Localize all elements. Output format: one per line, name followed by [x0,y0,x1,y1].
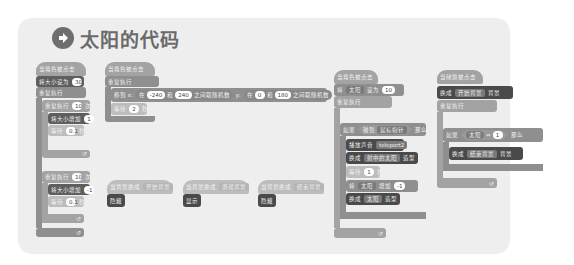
change-variable-block[interactable]: 将 太阳 增加 -1 [346,180,418,192]
repeat-end-1: ↺ [42,150,90,158]
repeat-end-2: ↺ [42,214,84,223]
block-suffix: 次 [85,173,91,181]
wait-block-2[interactable]: 等待 0.1 秒 [48,196,84,207]
backdrop-dropdown[interactable]: 开始背景 [143,183,173,191]
forever-block[interactable]: 重复执行 [334,96,392,108]
show-block[interactable]: 显示 [183,194,201,207]
block-label: 将 [337,86,343,94]
play-sound-block[interactable]: 播放声音 teleport2 [346,139,404,151]
loop-arrow-icon: ↺ [76,229,81,236]
wait-block[interactable]: 等待 2 秒 [111,103,147,115]
block-label: 增加 [379,182,391,190]
random-y-block[interactable]: 在 0 和 180 之间取随机数 [244,90,333,100]
set-size-block[interactable]: 将大小设为 30 [36,76,84,87]
equals-condition[interactable]: 太阳 = 1 [461,130,508,140]
title-text: 太阳的代码 [80,25,180,52]
repeat-block-1[interactable]: 重复执行 10 次 [42,100,90,112]
compare-value-input[interactable]: 1 [493,131,503,139]
variable-dropdown[interactable]: 太阳 [358,182,376,190]
hat-when-backdrop-switches[interactable]: 当背景换成 开始背景 [107,180,173,194]
hat-when-clicked[interactable]: 当角色被点击 [105,62,155,76]
backdrop-dropdown[interactable]: 结束背景 [294,183,324,191]
block-suffix: 秒 [142,105,148,113]
op-label: = [486,132,491,138]
variable-reporter[interactable]: 太阳 [466,131,484,139]
op-label: 碰到 [363,126,375,134]
block-label: 重复执行 [108,78,132,86]
hat-when-clicked[interactable]: 当角色被点击 [334,70,378,84]
touching-condition[interactable]: 碰到 鼠标指针 [358,125,412,135]
switch-backdrop-block-2[interactable]: 换成 结束背景 背景 [449,147,523,160]
op-label: 和 [267,91,273,99]
change-size-input[interactable]: -1 [84,186,94,194]
repeat-count-input[interactable]: 10 [72,173,82,181]
page-title: 太阳的代码 [52,22,180,54]
change-size-block-1[interactable]: 将大小增加 1 [48,113,90,124]
block-label: 如果 [446,131,458,139]
loop-arrow-icon: ↺ [378,230,383,237]
block-label: 换成 [440,89,452,97]
y-max-input[interactable]: 180 [275,91,292,99]
wait-block-1[interactable]: 等待 0.1 秒 [48,125,84,136]
forever-block[interactable]: 重复执行 [437,100,497,112]
block-suffix: 造型 [403,154,415,162]
backdrop-dropdown[interactable]: 游戏背景 [219,183,249,191]
hat-label: 当角色被点击 [337,73,373,81]
if-block[interactable]: 如果 碰到 鼠标指针 那么 [340,123,426,136]
variable-dropdown[interactable]: 太阳 [346,86,364,94]
backdrop-dropdown[interactable]: 结束背景 [467,150,497,158]
backdrop-dropdown[interactable]: 开始背景 [455,89,485,97]
costume-dropdown[interactable]: 太阳 [364,195,382,203]
y-label: y: [236,92,241,98]
wait-input[interactable]: 0.1 [66,127,76,135]
if-block[interactable]: 如果 太阳 = 1 那么 [443,128,543,142]
forever-block[interactable]: 重复执行 [36,87,86,98]
repeat-count-input[interactable]: 10 [72,102,82,110]
hide-block[interactable]: 隐藏 [107,194,125,207]
hat-when-clicked[interactable]: 当角色被点击 [36,62,86,76]
random-x-block[interactable]: 在 -240 和 240 之间取随机数 [136,90,233,100]
hat-when-backdrop-switches[interactable]: 当背景换成 结束背景 [258,180,324,194]
block-suffix: 次 [85,102,91,110]
variable-change-input[interactable]: -1 [394,182,405,190]
block-label: 等待 [114,105,126,113]
variable-value-input[interactable]: 10 [382,86,395,94]
set-variable-block[interactable]: 将 太阳 设为 10 [334,84,404,96]
block-suffix: 背景 [500,150,512,158]
repeat-block-2[interactable]: 重复执行 10 次 [42,171,90,183]
hat-when-flag-clicked[interactable]: 当绿旗被点击 [437,70,483,84]
block-label: 移到 x: [114,91,133,99]
sound-dropdown[interactable]: teleport2 [376,141,407,149]
wait-input[interactable]: 2 [129,105,139,113]
forever-block[interactable]: 重复执行 [105,76,159,87]
hat-when-backdrop-switches[interactable]: 当背景换成 游戏背景 [183,180,249,194]
switch-backdrop-block-1[interactable]: 换成 开始背景 背景 [437,86,513,99]
forever-end: ↺ [334,228,386,238]
block-label: 隐藏 [261,197,273,205]
hat-label: 当背景换成 [261,183,291,191]
block-label: 重复执行 [440,102,464,110]
goto-xy-block[interactable]: 移到 x: 在 -240 和 240 之间取随机数 y: 在 0 和 180 之… [111,88,327,102]
wait-input[interactable]: 0.1 [66,198,76,206]
hide-block[interactable]: 隐藏 [258,194,276,207]
x-max-input[interactable]: 240 [175,91,192,99]
touching-dropdown[interactable]: 鼠标指针 [377,126,407,134]
costume-dropdown[interactable]: 射中的太阳 [364,154,400,162]
change-size-block-2[interactable]: 将大小增加 -1 [48,184,90,195]
block-label: 如果 [343,126,355,134]
switch-costume-block-1[interactable]: 换成 射中的太阳 造型 [346,152,418,164]
if-end [443,164,543,171]
x-min-input[interactable]: -240 [147,91,165,99]
block-label: 将大小设为 [39,78,69,86]
block-label: 将 [349,182,355,190]
op-label: 和 [167,91,173,99]
wait-block[interactable]: 等待 1 秒 [346,166,380,178]
block-suffix: 背景 [488,89,500,97]
switch-costume-block-2[interactable]: 换成 太阳 造型 [346,193,400,205]
wait-input[interactable]: 1 [364,168,374,176]
block-label: 重复执行 [39,89,63,97]
change-size-input[interactable]: 1 [84,115,94,123]
y-min-input[interactable]: 0 [255,91,265,99]
size-input[interactable]: 30 [72,78,82,86]
block-label: 显示 [186,197,198,205]
